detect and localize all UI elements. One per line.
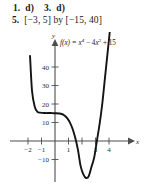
answer-number-3: 3. <box>44 3 51 13</box>
answer-key-block: 1.d)3.d) 5.[−3, 5] by [−15, 40] <box>0 0 144 26</box>
eqn-fx: f(x) = <box>60 39 78 47</box>
x-tick-label-neg2: −2 <box>24 146 32 154</box>
y-tick-label-10: 10 <box>42 119 50 127</box>
x-tick-label-neg1: −1 <box>38 146 46 154</box>
answer-line-2: 5.[−3, 5] by [−15, 40] <box>0 14 144 26</box>
x-tick-label-4: 4 <box>107 146 111 154</box>
eqn-minus: − <box>84 39 92 47</box>
answer-value-1: d) <box>25 3 34 13</box>
y-tick-label-40: 40 <box>42 64 50 72</box>
y-tick-label-neg10: −10 <box>38 156 49 164</box>
answer-number-5: 5. <box>12 15 19 25</box>
graph-svg: f(x) = x4 − 4x3 + 15 x y −2 −1 1 3 4 <box>0 32 144 186</box>
x-axis-label: x <box>135 138 140 146</box>
answer-value-5: [−3, 5] by [−15, 40] <box>24 15 102 25</box>
x-axis-arrow <box>128 138 135 145</box>
answer-line-1: 1.d)3.d) <box>0 2 144 14</box>
answer-value-3: d) <box>56 3 65 13</box>
x-tick-label-1: 1 <box>67 146 71 154</box>
y-tick-label-30: 30 <box>42 82 50 90</box>
y-axis-label: y <box>51 32 56 40</box>
function-graph: f(x) = x4 − 4x3 + 15 x y −2 −1 1 3 4 <box>0 32 144 186</box>
answer-number-1: 1. <box>13 3 20 13</box>
y-axis-arrow <box>52 39 59 46</box>
eqn-constant: 15 <box>109 39 117 47</box>
y-tick-label-20: 20 <box>42 101 50 109</box>
figure-page: 1.d)3.d) 5.[−3, 5] by [−15, 40] f(x) = x… <box>0 0 144 186</box>
